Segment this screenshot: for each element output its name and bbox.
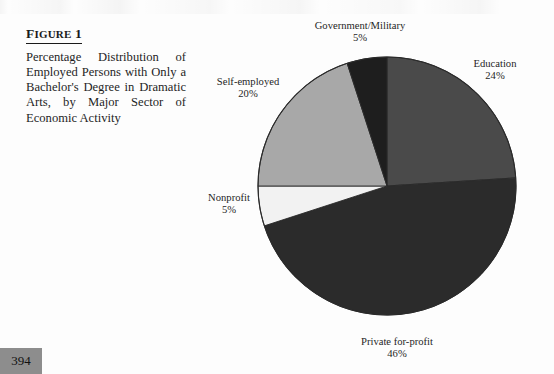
page-number: 394 [11, 353, 31, 369]
pie-label-nonprofit-value: 5% [188, 204, 270, 216]
pie-label-self-employed-value: 20% [196, 88, 300, 100]
pie-label-government-military: Government/Military 5% [292, 20, 428, 45]
pie-label-private-for-profit: Private for-profit 46% [322, 336, 472, 361]
pie-label-education-name: Education [474, 58, 517, 69]
page-number-badge: 394 [0, 348, 42, 374]
pie-label-private-for-profit-value: 46% [322, 348, 472, 360]
pie-label-government-military-name: Government/Military [315, 20, 406, 31]
pie-label-self-employed: Self-employed 20% [196, 76, 300, 101]
pie-label-education: Education 24% [452, 58, 538, 83]
pie-label-nonprofit: Nonprofit 5% [188, 192, 270, 217]
document-page: FIGURE 1 Percentage Distribution of Empl… [0, 0, 554, 374]
pie-label-self-employed-name: Self-employed [217, 76, 279, 87]
pie-label-private-for-profit-name: Private for-profit [361, 336, 433, 347]
pie-label-nonprofit-name: Nonprofit [208, 192, 250, 203]
pie-chart: Government/Military 5% Education 24% Sel… [0, 0, 554, 374]
pie-chart-svg [0, 0, 554, 374]
pie-label-education-value: 24% [452, 70, 538, 82]
pie-label-government-military-value: 5% [292, 32, 428, 44]
